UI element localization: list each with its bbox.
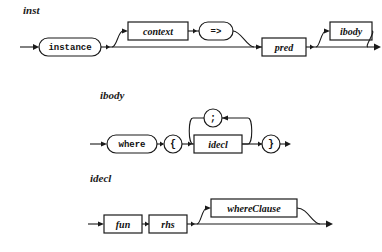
- railroad-diagram-canvas: inst instance context => pred: [0, 0, 382, 252]
- arrow-into-context: [122, 29, 128, 34]
- arrow-idecl-to-rbrace: [258, 142, 262, 147]
- node-instance-label: instance: [48, 43, 91, 53]
- rule-label-inst: inst: [23, 4, 40, 16]
- arrow-after-rhs: [191, 222, 195, 227]
- node-whereclause-label: whereClause: [227, 203, 281, 214]
- node-rbrace-label: }: [268, 139, 274, 150]
- arrow-loop-into-semicolon: [222, 116, 228, 121]
- arrow-ibody-exit: [285, 141, 291, 147]
- arrow-inst-exit: [374, 44, 381, 51]
- arrow-into-pred: [256, 45, 262, 50]
- arrow-ibody-entry: [101, 142, 107, 147]
- node-context-label: context: [143, 26, 174, 37]
- arrow-into-whereclause: [205, 206, 211, 211]
- arrow-after-instance: [106, 45, 110, 50]
- node-where-label: where: [118, 140, 145, 150]
- rule-label-ibody: ibody: [100, 89, 125, 101]
- track-branch-up-context: [112, 31, 123, 47]
- track-whereclause-rejoin: [297, 208, 320, 224]
- node-semicolon-label: ;: [210, 113, 216, 124]
- arrow-idecl-entry: [98, 222, 104, 227]
- node-lbrace-label: {: [170, 139, 176, 150]
- track-fatarrow-rejoin: [233, 31, 254, 47]
- rule-label-idecl: idecl: [90, 172, 112, 184]
- node-fatarrow-label: =>: [211, 27, 222, 37]
- node-fun-label: fun: [116, 219, 131, 230]
- arrow-where-to-lbrace: [160, 142, 164, 147]
- arrow-inst-entry: [33, 44, 39, 50]
- arrow-idecl-exit: [326, 221, 333, 228]
- rule-inst: inst instance context => pred: [20, 4, 381, 56]
- node-idecl-label-ibody: idecl: [208, 139, 228, 150]
- track-branch-up-ibody: [316, 31, 326, 47]
- rule-idecl: idecl fun rhs whereClause: [88, 172, 333, 233]
- node-rhs-label: rhs: [161, 219, 174, 230]
- node-pred-label: pred: [274, 42, 294, 53]
- rule-ibody: ibody where { idecl ; }: [90, 89, 291, 153]
- track-branch-up-whereclause: [197, 208, 207, 224]
- arrow-after-pred: [310, 45, 314, 50]
- arrow-fun-to-rhs: [145, 222, 149, 227]
- arrow-context-to-fatarrow: [193, 29, 197, 34]
- arrow-into-ibody: [324, 29, 330, 34]
- node-ibody-label-inst: ibody: [340, 26, 363, 37]
